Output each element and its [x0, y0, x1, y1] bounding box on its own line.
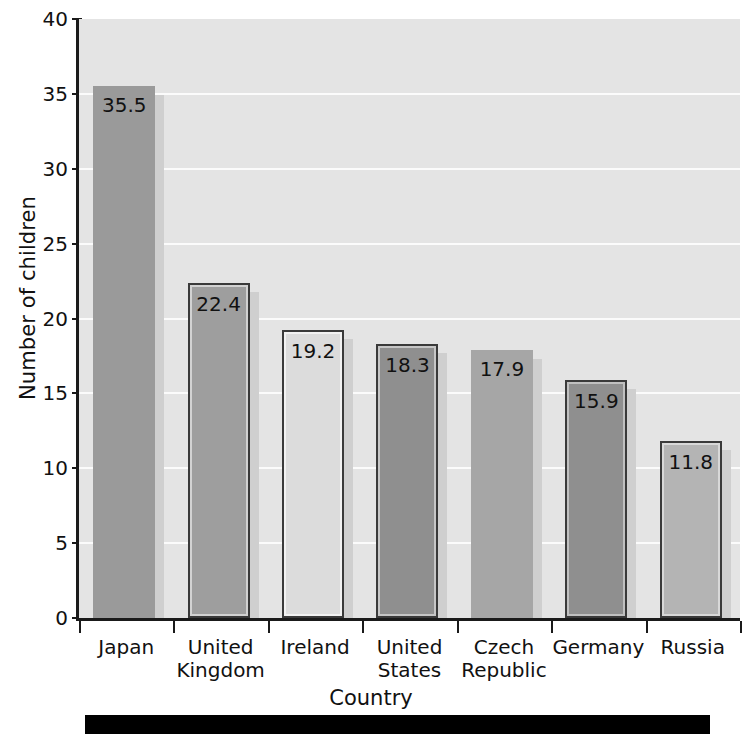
x-tick-mark: [173, 621, 175, 633]
x-axis-category-label-line: Russia: [646, 636, 740, 659]
x-axis-category-label-line: Republic: [457, 659, 551, 682]
bar-group: 19.2: [268, 19, 362, 618]
bar-group: 17.9: [457, 19, 551, 618]
x-tick-mark: [362, 621, 364, 633]
x-axis-category-label: Japan: [79, 636, 173, 659]
y-tick-label: 10: [28, 456, 68, 480]
y-tick-label: 35: [28, 82, 68, 106]
bar[interactable]: 19.2: [282, 330, 344, 618]
bar-value-label: 18.3: [378, 353, 436, 377]
x-tick-mark: [79, 621, 81, 633]
y-tick-label: 15: [28, 381, 68, 405]
x-axis-category-label: CzechRepublic: [457, 636, 551, 683]
y-tick-label: 5: [28, 531, 68, 555]
y-tick-label: 20: [28, 307, 68, 331]
bar-value-label: 11.8: [662, 450, 720, 474]
x-axis-category-label-line: Czech: [457, 636, 551, 659]
y-tick-label: 0: [28, 606, 68, 630]
x-axis-category-label: UnitedKingdom: [173, 636, 267, 683]
bar-inner-highlight: [567, 382, 625, 616]
x-tick-mark: [268, 621, 270, 633]
x-tick-mark: [457, 621, 459, 633]
bar[interactable]: 15.9: [565, 380, 627, 618]
bar-inner-highlight: [284, 332, 342, 616]
bar-value-label: 22.4: [190, 292, 248, 316]
footer-black-bar: [85, 715, 710, 734]
plot-area: 35.522.419.218.317.915.911.8: [79, 19, 740, 618]
bar[interactable]: 17.9: [471, 350, 533, 618]
bar[interactable]: 22.4: [188, 283, 250, 618]
x-axis-category-label-line: Germany: [551, 636, 645, 659]
x-axis-category-label: Ireland: [268, 636, 362, 659]
y-axis-ticks: 0510152025303540: [20, 0, 68, 734]
bar-group: 11.8: [646, 19, 740, 618]
bar-value-label: 35.5: [93, 93, 155, 117]
y-tick-label: 30: [28, 157, 68, 181]
x-axis-category-label-line: Kingdom: [173, 659, 267, 682]
bar-chart: Number of children 0510152025303540 35.5…: [0, 0, 742, 734]
y-tick-label: 25: [28, 232, 68, 256]
x-axis-category-label-line: States: [362, 659, 456, 682]
y-tick-label: 40: [28, 7, 68, 31]
bar-value-label: 15.9: [567, 389, 625, 413]
x-axis-line: [76, 618, 740, 621]
bar-group: 15.9: [551, 19, 645, 618]
bar-group: 18.3: [362, 19, 456, 618]
x-axis-category-label-line: United: [173, 636, 267, 659]
x-axis-category-label: Russia: [646, 636, 740, 659]
x-tick-mark: [646, 621, 648, 633]
bar-inner-highlight: [190, 285, 248, 616]
bar-group: 35.5: [79, 19, 173, 618]
bar-group: 22.4: [173, 19, 267, 618]
bar-value-label: 17.9: [471, 357, 533, 381]
bar[interactable]: 35.5: [93, 86, 155, 618]
bar-inner-highlight: [378, 346, 436, 616]
x-axis-category-label-line: United: [362, 636, 456, 659]
bar[interactable]: 18.3: [376, 344, 438, 618]
bar[interactable]: 11.8: [660, 441, 722, 618]
x-tick-mark: [551, 621, 553, 633]
x-axis-category-label: Germany: [551, 636, 645, 659]
x-axis-category-label: UnitedStates: [362, 636, 456, 683]
bar-value-label: 19.2: [284, 339, 342, 363]
x-axis-category-label-line: Ireland: [268, 636, 362, 659]
x-axis-category-label-line: Japan: [79, 636, 173, 659]
x-axis-title: Country: [0, 686, 742, 710]
